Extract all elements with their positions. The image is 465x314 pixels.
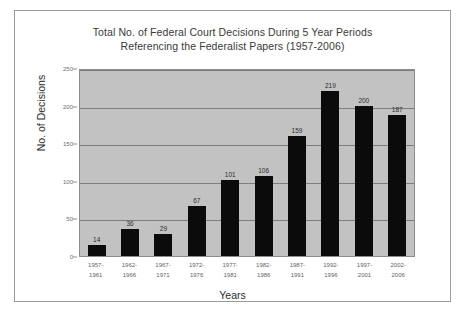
chart-title-line-2: Referencing the Federalist Papers (1957-… [15,39,450,53]
bar[interactable] [288,136,306,256]
bar-item[interactable]: 29 [148,70,178,256]
y-axis-tick-label: 200 [63,104,73,110]
bar[interactable] [321,91,339,256]
chart-title: Total No. of Federal Court Decisions Dur… [15,25,450,53]
bar-value-label: 101 [215,171,245,178]
x-axis-tick-label-line: 1967- [148,260,178,270]
bar-value-label: 159 [282,127,312,134]
bar-value-label: 14 [82,236,112,243]
x-axis-tick-label-line: 2001 [349,270,379,280]
x-axis-label: Years [15,289,450,301]
bar[interactable] [188,206,206,256]
bar-item[interactable]: 159 [282,70,312,256]
x-axis-tick-label-line: 2002- [383,260,413,270]
bar-value-label: 36 [115,220,145,227]
bar-item[interactable]: 14 [82,70,112,256]
x-axis-tick-label-line: 1971 [148,270,178,280]
x-axis-tick-label-line: 2006 [383,270,413,280]
plot-area: 14362967101106159219200187 [79,69,415,257]
y-axis-tick-mark [73,181,77,182]
x-axis-tick-label-line: 1992- [316,260,346,270]
x-axis-tick-label-line: 1976 [181,270,211,280]
y-axis-ticks: 050100150200250 [51,69,77,257]
y-axis-tick-label: 100 [63,179,73,185]
y-axis-tick-label: 150 [63,141,73,147]
bar-value-label: 67 [182,197,212,204]
bar-item[interactable]: 36 [115,70,145,256]
chart-title-line-1: Total No. of Federal Court Decisions Dur… [15,25,450,39]
y-axis-tick-mark [73,144,77,145]
bar-item[interactable]: 219 [315,70,345,256]
bar[interactable] [388,115,406,256]
x-axis-tick-label-line: 1981 [215,270,245,280]
x-axis-tick-label-line: 1982- [249,260,279,270]
x-axis-tick-label-line: 1977- [215,260,245,270]
y-axis-tick-mark [73,257,77,258]
bar-item[interactable]: 187 [382,70,412,256]
x-axis-tick-label-line: 1957- [81,260,111,270]
bar-item[interactable]: 106 [249,70,279,256]
x-axis-tick-label-line: 1991 [282,270,312,280]
bar[interactable] [88,245,106,256]
bar-series: 14362967101106159219200187 [80,70,414,256]
x-axis-tick-label-line: 1966 [114,270,144,280]
y-axis-tick-mark [73,69,77,70]
y-axis-tick-label: 250 [63,66,73,72]
x-axis-tick-label-line: 1972- [181,260,211,270]
bar-value-label: 187 [382,106,412,113]
x-axis-tick-label-line: 1996 [316,270,346,280]
bar-value-label: 200 [349,97,379,104]
x-axis-tick-label-line: 1997- [349,260,379,270]
chart-frame: Total No. of Federal Court Decisions Dur… [14,10,451,302]
y-axis-label: No. of Decisions [35,43,47,183]
bar-value-label: 106 [249,167,279,174]
bar[interactable] [355,106,373,256]
bar[interactable] [121,229,139,256]
bar-item[interactable]: 67 [182,70,212,256]
bar-value-label: 29 [148,225,178,232]
x-axis-tick-label-line: 1961 [81,270,111,280]
bar[interactable] [154,234,172,256]
y-axis-tick-label: 50 [66,216,73,222]
x-axis-tick-label-line: 1987- [282,260,312,270]
y-axis-tick-mark [73,219,77,220]
bar[interactable] [255,176,273,256]
bar-item[interactable]: 101 [215,70,245,256]
x-axis-tick-label-line: 1962- [114,260,144,270]
x-axis-tick-label-line: 1986 [249,270,279,280]
bar-item[interactable]: 200 [349,70,379,256]
bar-value-label: 219 [315,82,345,89]
y-axis-tick-mark [73,106,77,107]
bar[interactable] [221,180,239,256]
